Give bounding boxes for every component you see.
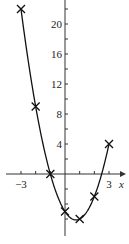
- x-axis-label: x: [118, 178, 124, 190]
- y-tick-label: 4: [57, 138, 63, 150]
- x-tick-label: −3: [15, 178, 27, 190]
- cross-marker-icon: [76, 215, 84, 223]
- y-tick-label: 12: [51, 78, 62, 90]
- y-tick-label: 8: [57, 108, 63, 120]
- parabola-chart: 48121620−33 x: [0, 0, 129, 244]
- x-axis-arrow-icon: [120, 171, 126, 177]
- cross-marker-icon: [90, 193, 98, 201]
- x-tick-label: 3: [106, 178, 112, 190]
- tick-labels: 48121620−33: [15, 18, 112, 190]
- y-tick-label: 20: [51, 18, 63, 30]
- y-tick-label: 16: [51, 48, 63, 60]
